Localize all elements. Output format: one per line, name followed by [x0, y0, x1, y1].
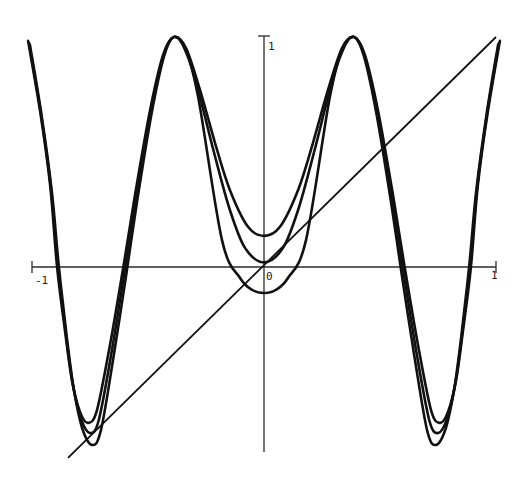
x-min-label: -1 [35, 274, 48, 287]
origin-label: 0 [266, 270, 273, 283]
y-max-label: 1 [268, 40, 275, 53]
line-y-equals-x [68, 37, 496, 458]
chart-plot: -1 1 0 1 [0, 0, 528, 483]
x-max-label: 1 [491, 269, 498, 282]
y-axis [258, 36, 270, 452]
